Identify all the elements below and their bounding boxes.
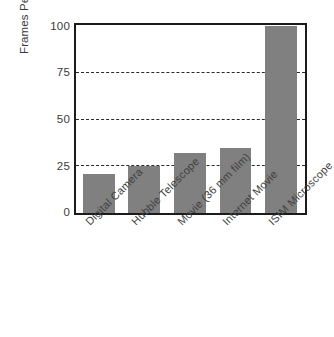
x-tick-label: ISIM Microscope xyxy=(266,159,334,228)
